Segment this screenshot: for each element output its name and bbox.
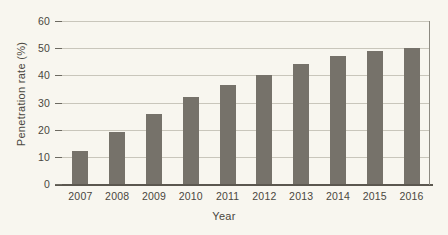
bar [220,85,236,184]
y-axis-tick-mark [55,21,62,22]
x-axis-tick-label: 2008 [97,190,137,202]
x-axis-tick-label: 2009 [134,190,174,202]
x-axis-line [55,184,433,186]
y-axis-tick-label: 40 [38,69,50,81]
y-axis-tick-mark [55,130,62,131]
y-axis-tick-label: 60 [38,15,50,27]
y-axis-tick-mark [55,157,62,158]
x-axis-tick-label: 2010 [171,190,211,202]
gridline [62,21,430,22]
y-axis-tick-mark [55,184,62,185]
plot-area [62,18,430,184]
y-axis-tick-label: 0 [44,178,50,190]
y-axis-tick-label: 10 [38,151,50,163]
bar-chart-figure: 0102030405060 20072008200920102011201220… [0,0,448,235]
y-axis-tick-mark [55,75,62,76]
bar [183,97,199,184]
x-axis-tick-label: 2007 [60,190,100,202]
x-axis-tick-label: 2015 [355,190,395,202]
x-axis-title: Year [0,210,448,222]
x-axis-tick-label: 2014 [318,190,358,202]
bar [330,56,346,184]
bar [72,151,88,184]
x-axis-tick-label: 2012 [244,190,284,202]
gridline [62,48,430,49]
y-axis-tick-label: 50 [38,42,50,54]
y-axis-tick-label: 20 [38,124,50,136]
bar [256,75,272,184]
bar [146,114,162,184]
y-axis-tick-label: 30 [38,97,50,109]
y-axis-tick-mark [55,48,62,49]
y-axis-title: Penetration rate (%) [15,24,27,164]
y-axis-tick-labels: 0102030405060 [0,0,56,235]
bar [109,132,125,184]
right-axis-line [429,21,430,185]
bar [404,48,420,184]
bar [367,51,383,184]
x-axis-tick-labels: 2007200820092010201120122013201420152016 [62,190,430,206]
bar [293,64,309,184]
y-axis-tick-mark [55,103,62,104]
x-axis-tick-label: 2013 [281,190,321,202]
x-axis-tick-label: 2016 [392,190,432,202]
x-axis-tick-label: 2011 [208,190,248,202]
